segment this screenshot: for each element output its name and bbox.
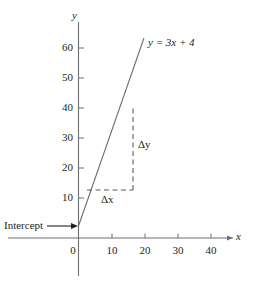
- x-tick-label-30: 30: [167, 245, 189, 256]
- equation-label: y = 3x + 4: [148, 37, 195, 48]
- x-tick-label-0: 0: [62, 245, 84, 256]
- x-tick-label-10: 10: [101, 245, 123, 256]
- intercept-label: Intercept: [4, 220, 43, 231]
- figure-graph-linear-equation: y x 60 50 40 30 20 10 0 10 20 30 40 y = …: [0, 0, 255, 293]
- intercept-arrow: [47, 223, 78, 229]
- y-tick-label-50: 50: [51, 72, 73, 83]
- y-tick-label-40: 40: [51, 102, 73, 113]
- y-tick-label-60: 60: [51, 42, 73, 53]
- y-axis-ticks: [79, 48, 85, 198]
- delta-x-label: Δx: [101, 194, 114, 205]
- x-axis: [8, 235, 233, 240]
- y-tick-label-10: 10: [51, 192, 73, 203]
- y-tick-label-30: 30: [51, 132, 73, 143]
- x-axis-ticks: [112, 234, 211, 239]
- delta-y-label: Δy: [138, 139, 151, 150]
- y-tick-label-20: 20: [51, 162, 73, 173]
- x-tick-label-40: 40: [200, 245, 222, 256]
- x-tick-label-20: 20: [134, 245, 156, 256]
- x-axis-label: x: [236, 231, 241, 242]
- y-axis-label: y: [72, 10, 77, 21]
